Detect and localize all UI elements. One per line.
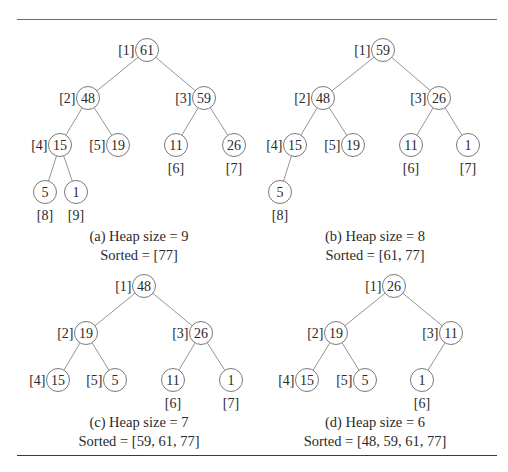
- tree-edge: [313, 343, 330, 370]
- node-value: 26: [432, 91, 446, 106]
- node-value: 19: [79, 326, 93, 341]
- heap-node: 5[5]: [86, 369, 126, 392]
- node-index-label: [6]: [165, 396, 181, 411]
- tree-edge: [332, 57, 374, 91]
- heap-node: 1[6]: [411, 369, 434, 411]
- node-value: 5: [362, 373, 369, 388]
- node-index-label: [2]: [57, 326, 73, 341]
- node-index-label: [7]: [226, 161, 242, 176]
- heap-node: 11[6]: [162, 369, 185, 411]
- node-index-label: [8]: [272, 208, 288, 223]
- tree-edge: [92, 343, 109, 370]
- node-value: 1: [419, 373, 426, 388]
- node-index-label: [1]: [118, 43, 134, 58]
- heap-node: 15[4]: [266, 134, 306, 157]
- tree-edge: [301, 108, 317, 135]
- node-index-label: [5]: [89, 138, 105, 153]
- heap-node: 26[1]: [365, 275, 405, 298]
- node-index-label: [4]: [278, 373, 294, 388]
- heap-node: 15[4]: [278, 369, 318, 392]
- heap-node: 26[7]: [223, 134, 246, 176]
- node-value: 5: [42, 185, 49, 200]
- node-value: 15: [300, 373, 314, 388]
- node-index-label: [6]: [168, 161, 184, 176]
- node-value: 26: [387, 279, 401, 294]
- panel-caption-heap-size: (b) Heap size = 8: [325, 228, 425, 245]
- heap-node: 48[2]: [294, 87, 334, 110]
- tree-edge: [156, 57, 195, 90]
- heap-node: 19[5]: [89, 134, 129, 157]
- panel-caption-heap-size: (a) Heap size = 9: [89, 228, 188, 245]
- node-value: 61: [140, 43, 154, 58]
- node-index-label: [7]: [460, 161, 476, 176]
- panel-caption-sorted: Sorted = [61, 77]: [325, 247, 424, 263]
- heap-node: 5[8]: [269, 181, 292, 223]
- node-index-label: [1]: [115, 279, 131, 294]
- heap-node: 26[3]: [410, 87, 450, 110]
- tree-edge: [445, 108, 462, 135]
- tree-edge: [345, 293, 385, 326]
- node-value: 1: [228, 373, 235, 388]
- node-index-label: [3]: [410, 91, 426, 106]
- node-value: 11: [166, 373, 179, 388]
- tree-edge: [329, 108, 347, 136]
- heap-panel-a: 61[1]48[2]59[3]15[4]19[5]11[6]26[7]5[8]1…: [31, 39, 245, 264]
- heap-node: 5[5]: [336, 369, 376, 392]
- heap-node: 61[1]: [118, 39, 158, 62]
- node-index-label: [1]: [365, 279, 381, 294]
- node-value: 15: [53, 138, 67, 153]
- node-index-label: [4]: [29, 373, 45, 388]
- heap-node: 11[6]: [400, 134, 423, 176]
- heap-node: 19[5]: [324, 134, 364, 157]
- node-value: 15: [288, 138, 302, 153]
- node-index-label: [6]: [414, 396, 430, 411]
- tree-edge: [283, 156, 291, 181]
- node-index-label: [2]: [307, 326, 323, 341]
- node-value: 59: [197, 91, 211, 106]
- edges: [48, 57, 227, 181]
- node-value: 26: [227, 138, 241, 153]
- node-index-label: [6]: [403, 161, 419, 176]
- node-index-label: [5]: [324, 138, 340, 153]
- tree-edge: [392, 57, 431, 90]
- node-index-label: [1]: [354, 43, 370, 58]
- heap-panel-c: 48[1]19[2]26[3]15[4]5[5]11[6]1[7](c) Hea…: [29, 275, 242, 450]
- node-index-label: [2]: [294, 91, 310, 106]
- heap-node: 26[3]: [172, 322, 212, 345]
- node-index-label: [7]: [223, 396, 239, 411]
- heap-panel-d: 26[1]19[2]11[3]15[4]5[5]1[6](d) Heap siz…: [278, 275, 462, 450]
- heap-panel-b: 59[1]48[2]26[3]15[4]19[5]11[6]1[7]5[8](b…: [266, 39, 479, 264]
- node-index-label: [3]: [172, 326, 188, 341]
- node-value: 1: [465, 138, 472, 153]
- node-value: 11: [444, 326, 457, 341]
- node-index-label: [4]: [266, 138, 282, 153]
- tree-edge: [207, 343, 225, 371]
- heap-node: 11[6]: [165, 134, 188, 176]
- tree-edge: [417, 108, 433, 135]
- node-index-label: [4]: [31, 138, 47, 153]
- bottom-rule: [17, 455, 497, 456]
- node-value: 19: [346, 138, 360, 153]
- heap-diagrams: 61[1]48[2]59[3]15[4]19[5]11[6]26[7]5[8]1…: [0, 0, 508, 472]
- node-value: 59: [376, 43, 390, 58]
- top-rule: [17, 19, 497, 20]
- node-value: 5: [112, 373, 119, 388]
- node-value: 48: [316, 91, 330, 106]
- heap-node: 1[7]: [457, 134, 480, 176]
- tree-edge: [95, 293, 135, 326]
- tree-edge: [64, 343, 80, 370]
- tree-edge: [66, 108, 82, 135]
- heap-node: 19[2]: [57, 322, 97, 345]
- node-index-label: [9]: [68, 208, 84, 223]
- heap-node: 15[4]: [31, 134, 71, 157]
- node-index-label: [5]: [336, 373, 352, 388]
- node-value: 11: [169, 138, 182, 153]
- heap-node: 1[9]: [65, 181, 88, 223]
- edges: [283, 57, 461, 181]
- heap-node: 48[2]: [59, 87, 99, 110]
- heapsort-figure: 61[1]48[2]59[3]15[4]19[5]11[6]26[7]5[8]1…: [0, 0, 508, 472]
- heap-node: 15[4]: [29, 369, 69, 392]
- node-value: 48: [81, 91, 95, 106]
- node-value: 26: [194, 326, 208, 341]
- heap-node: 59[1]: [354, 39, 394, 62]
